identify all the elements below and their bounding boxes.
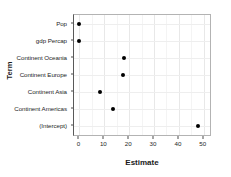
y-axis-tick-label: Continent Europe (20, 71, 67, 78)
data-point (196, 124, 200, 128)
gridline-horizontal (74, 24, 210, 25)
x-axis-tick-mark (177, 136, 178, 139)
y-axis-tick-label: Continent Oceania (17, 53, 67, 60)
data-point (121, 73, 125, 77)
y-axis-tick-labels: Popgdp PercapContinent OceaniaContinent … (14, 14, 70, 136)
dot-plot-chart: Term Popgdp PercapContinent OceaniaConti… (0, 0, 231, 177)
x-axis-tick-mark (78, 136, 79, 139)
x-axis-tick-label: 40 (174, 140, 181, 147)
x-axis-tick-label: 50 (199, 140, 206, 147)
gridline-horizontal (74, 92, 210, 93)
gridline-horizontal (74, 58, 210, 59)
data-point (98, 90, 102, 94)
data-point (77, 22, 81, 26)
gridline-horizontal (74, 75, 210, 76)
x-axis-title: Estimate (74, 158, 210, 167)
gridline-horizontal (74, 126, 210, 127)
plot-panel (73, 14, 211, 136)
x-axis-tick-label: 30 (150, 140, 157, 147)
x-axis-tick-label: 10 (100, 140, 107, 147)
y-axis-tick-label: Pop (56, 19, 67, 26)
x-axis-tick-mark (153, 136, 154, 139)
x-axis-tick-label: 0 (77, 140, 80, 147)
gridline-horizontal (74, 41, 210, 42)
gridline-horizontal (74, 109, 210, 110)
data-point (77, 39, 81, 43)
y-axis-title-text: Term (5, 61, 14, 79)
y-axis-tick-label: gdp Percap (36, 36, 67, 43)
x-axis-tick-mark (103, 136, 104, 139)
y-axis-tick-label: (Intercept) (39, 122, 67, 129)
data-point (122, 56, 126, 60)
y-axis-tick-label: Continent Asia (28, 88, 67, 95)
x-axis-ticks: 01020304050 (73, 136, 211, 154)
x-axis-tick-mark (128, 136, 129, 139)
x-axis-tick-mark (202, 136, 203, 139)
y-axis-tick-label: Continent Americas (14, 105, 67, 112)
x-axis-tick-label: 20 (125, 140, 132, 147)
data-point (111, 107, 115, 111)
